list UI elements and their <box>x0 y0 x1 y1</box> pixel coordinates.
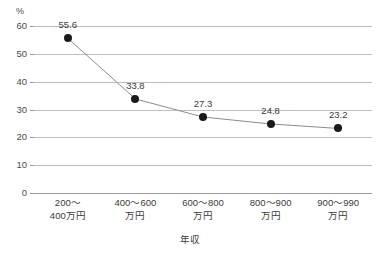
data-point-label: 33.8 <box>126 80 145 90</box>
x-axis-title: 年収 <box>0 232 380 246</box>
x-axis-category-label: 800〜900万円 <box>250 197 292 222</box>
x-axis-category-label: 200〜400万円 <box>50 197 86 222</box>
data-point-label: 55.6 <box>59 20 78 30</box>
y-axis-tick-label: 10 <box>16 160 27 170</box>
data-point-marker[interactable] <box>199 113 207 121</box>
series-line <box>34 26 372 193</box>
x-axis-category-line-1: 400〜600 <box>115 197 157 210</box>
x-axis-category-label: 900〜990万円 <box>317 197 359 222</box>
gridline <box>34 193 372 194</box>
line-chart: % 0102030405060 55.633.827.324.823.2 200… <box>0 0 380 255</box>
y-axis-tick-label: 20 <box>16 133 27 143</box>
y-axis-tick-label: 0 <box>22 188 27 198</box>
y-axis-unit-label: % <box>16 6 24 16</box>
x-axis-category-line-1: 600〜800 <box>182 197 224 210</box>
y-axis-tick-label: 60 <box>16 21 27 31</box>
x-axis-category-line-2: 万円 <box>115 210 157 223</box>
x-axis-category-line-2: 万円 <box>250 210 292 223</box>
x-axis-category-line-2: 400万円 <box>50 210 86 223</box>
y-axis-tick-mark <box>30 193 34 194</box>
data-point-label: 23.2 <box>329 110 348 120</box>
y-axis-tick-label: 30 <box>16 105 27 115</box>
plot-area: 0102030405060 55.633.827.324.823.2 200〜4… <box>34 26 372 193</box>
x-axis-category-line-2: 万円 <box>182 210 224 223</box>
x-axis-category-line-2: 万円 <box>317 210 359 223</box>
x-axis-category-line-1: 200〜 <box>50 197 86 210</box>
x-axis-category-label: 400〜600万円 <box>115 197 157 222</box>
x-axis-category-line-1: 900〜990 <box>317 197 359 210</box>
y-axis-tick-label: 50 <box>16 49 27 59</box>
x-axis-category-line-1: 800〜900 <box>250 197 292 210</box>
y-axis-tick-label: 40 <box>16 77 27 87</box>
data-point-marker[interactable] <box>64 34 72 42</box>
data-point-marker[interactable] <box>267 120 275 128</box>
x-axis-category-label: 600〜800万円 <box>182 197 224 222</box>
data-point-label: 27.3 <box>194 99 213 109</box>
data-point-label: 24.8 <box>261 105 280 115</box>
